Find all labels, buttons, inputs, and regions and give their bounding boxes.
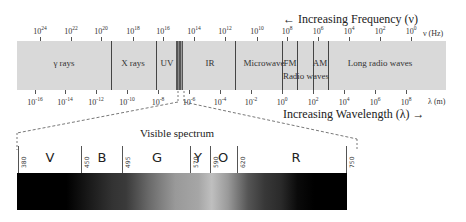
visible-divider [18,146,19,173]
color-band-label: B [98,150,107,165]
visible-divider [346,146,347,173]
color-band-label: O [218,150,228,165]
visible-divider [190,146,191,173]
color-band-label: G [152,150,162,165]
visible-divider [210,146,211,173]
nm-label: 495 [124,157,131,168]
nm-label: 380 [20,157,27,168]
visible-spectrum-gradient [17,173,347,210]
visible-divider [237,146,238,173]
nm-label: 620 [239,157,246,168]
color-band-label: Y [194,150,202,165]
visible-spectrum-title: Visible spectrum [140,127,214,139]
color-band-label: V [46,150,55,165]
visible-divider [122,146,123,173]
nm-label: 750 [348,157,355,168]
visible-divider [81,146,82,173]
nm-label: 450 [83,157,90,168]
color-band-label: R [291,150,300,165]
